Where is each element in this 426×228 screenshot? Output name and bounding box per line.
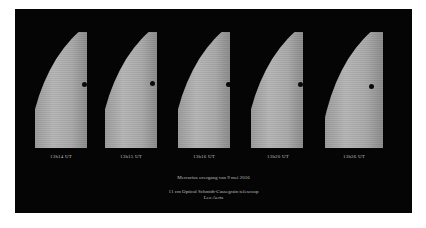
- author-name: Leo Aerts: [15, 195, 412, 201]
- mercury-disk: [82, 82, 87, 87]
- panel-time-caption-3: 13h16 UT: [169, 154, 239, 159]
- sun-limb-panel-1: [35, 32, 87, 148]
- sun-limb-panel-5: [325, 32, 383, 148]
- mercury-disk: [298, 82, 303, 87]
- mercury-disk: [369, 84, 374, 89]
- sun-limb-panel-4: [251, 32, 303, 148]
- sun-limb-panel-2: [105, 32, 157, 148]
- sun-limb-edge: [251, 32, 303, 148]
- panel-time-caption-5: 13h26 UT: [319, 154, 389, 159]
- sun-limb-edge: [178, 32, 230, 148]
- mercury-disk: [150, 81, 155, 86]
- sun-limb-panel-3: [178, 32, 230, 148]
- sun-limb-edge: [325, 32, 383, 148]
- panel-time-caption-4: 13h20 UT: [243, 154, 313, 159]
- panel-time-caption-2: 13h15 UT: [96, 154, 166, 159]
- sun-limb-edge: [35, 32, 87, 148]
- composite-credits: 11 cm Optical Schmidt-Cassegrain telesco…: [15, 189, 412, 201]
- transit-composite-frame: 13h14 UT 13h15 UT 13h16 UT 13h20 UT 13h2…: [15, 9, 412, 213]
- mercury-disk: [226, 82, 230, 87]
- sun-limb-edge: [105, 32, 157, 148]
- composite-title: Mercurius overgang van 9 mei 2016: [15, 175, 412, 180]
- panel-time-caption-1: 13h14 UT: [26, 154, 96, 159]
